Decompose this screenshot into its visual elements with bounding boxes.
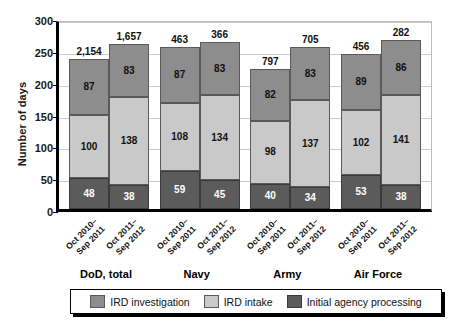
stacked-bar[interactable]: 3413783705 (290, 47, 330, 209)
bar-total-label: 797 (262, 56, 279, 67)
segment-value-label: 40 (265, 191, 276, 201)
bar-segment-initial-agency-processing[interactable]: 59 (160, 171, 200, 209)
legend-label: IRD investigation (110, 296, 189, 308)
bar-segment-initial-agency-processing[interactable]: 48 (69, 178, 109, 209)
y-axis-tick-label: 250 (9, 47, 53, 59)
bar-total-label: 282 (393, 27, 410, 38)
segment-value-label: 59 (174, 185, 185, 195)
segment-value-label: 83 (305, 69, 316, 79)
segment-value-label: 45 (214, 190, 225, 200)
stacked-bar[interactable]: 5310289456 (341, 54, 381, 209)
segment-value-label: 86 (395, 63, 406, 73)
bar-segment-initial-agency-processing[interactable]: 34 (290, 187, 330, 209)
bar-segment-ird-intake[interactable]: 108 (160, 103, 200, 172)
segment-value-label: 98 (265, 147, 276, 157)
bar-segment-ird-intake[interactable]: 100 (69, 115, 109, 179)
bar-segment-initial-agency-processing[interactable]: 38 (381, 185, 421, 209)
legend-label: Initial agency processing (307, 296, 422, 308)
bar-segment-initial-agency-processing[interactable]: 38 (109, 185, 149, 209)
bar-segment-ird-intake[interactable]: 102 (341, 110, 381, 175)
legend-swatch-icon (90, 295, 105, 308)
segment-value-label: 141 (393, 135, 410, 145)
plot-inner: 48100872,15438138831,6575910887463451348… (59, 22, 431, 209)
bar-total-label: 2,154 (76, 46, 101, 57)
segment-value-label: 48 (83, 189, 94, 199)
bar-segment-ird-investigation[interactable]: 83 (109, 44, 149, 97)
bar-segment-initial-agency-processing[interactable]: 40 (250, 184, 290, 209)
segment-value-label: 87 (174, 70, 185, 80)
stacked-bar[interactable]: 48100872,154 (69, 59, 109, 209)
stacked-bar-chart: Number of days 050100150200250300 481008… (0, 0, 456, 334)
bar-segment-ird-investigation[interactable]: 82 (250, 69, 290, 121)
bar-segment-ird-intake[interactable]: 134 (200, 95, 240, 180)
segment-value-label: 89 (355, 77, 366, 87)
bar-segment-ird-investigation[interactable]: 86 (381, 40, 421, 95)
bar-total-label: 705 (302, 34, 319, 45)
y-axis-tick-mark (53, 212, 58, 213)
y-axis-tick-label: 200 (9, 79, 53, 91)
bar-segment-initial-agency-processing[interactable]: 45 (200, 180, 240, 209)
bar-segment-ird-investigation[interactable]: 83 (290, 47, 330, 100)
y-axis-tick-label: 0 (9, 206, 53, 218)
gridline (59, 22, 431, 23)
bar-segment-ird-intake[interactable]: 141 (381, 95, 421, 185)
bar-total-label: 1,657 (116, 31, 141, 42)
segment-value-label: 53 (355, 187, 366, 197)
bar-total-label: 463 (171, 34, 188, 45)
stacked-bar[interactable]: 38138831,657 (109, 44, 149, 209)
legend-item[interactable]: IRD intake (204, 295, 273, 308)
segment-value-label: 83 (123, 66, 134, 76)
legend-item[interactable]: IRD investigation (90, 295, 189, 308)
bar-total-label: 366 (211, 29, 228, 40)
segment-value-label: 137 (302, 139, 319, 149)
segment-value-label: 38 (395, 192, 406, 202)
segment-value-label: 100 (81, 142, 98, 152)
y-axis-tick-label: 50 (9, 174, 53, 186)
y-axis-tick-label: 150 (9, 111, 53, 123)
bar-total-label: 456 (353, 41, 370, 52)
stacked-bar[interactable]: 409882797 (250, 69, 290, 209)
bar-segment-ird-investigation[interactable]: 89 (341, 54, 381, 111)
segment-value-label: 82 (265, 90, 276, 100)
segment-value-label: 83 (214, 64, 225, 74)
plot-area: 48100872,15438138831,6575910887463451348… (56, 21, 432, 212)
bar-segment-ird-intake[interactable]: 138 (109, 97, 149, 185)
legend-swatch-icon (204, 295, 219, 308)
bar-segment-initial-agency-processing[interactable]: 53 (341, 175, 381, 209)
segment-value-label: 134 (211, 133, 228, 143)
chart-legend: IRD investigationIRD intakeInitial agenc… (70, 289, 442, 314)
stacked-bar[interactable]: 3814186282 (381, 40, 421, 209)
y-axis-tick-label: 300 (9, 15, 53, 27)
y-axis-tick-label: 100 (9, 142, 53, 154)
bar-segment-ird-investigation[interactable]: 83 (200, 42, 240, 95)
bar-segment-ird-intake[interactable]: 137 (290, 100, 330, 187)
legend-label: IRD intake (224, 296, 273, 308)
segment-value-label: 108 (171, 132, 188, 142)
segment-value-label: 102 (353, 138, 370, 148)
bar-segment-ird-investigation[interactable]: 87 (160, 47, 200, 102)
bar-segment-ird-investigation[interactable]: 87 (69, 59, 109, 114)
legend-item[interactable]: Initial agency processing (287, 295, 422, 308)
segment-value-label: 87 (83, 82, 94, 92)
bar-segment-ird-intake[interactable]: 98 (250, 121, 290, 183)
stacked-bar[interactable]: 4513483366 (200, 42, 240, 209)
segment-value-label: 34 (305, 193, 316, 203)
legend-swatch-icon (287, 295, 302, 308)
stacked-bar[interactable]: 5910887463 (160, 47, 200, 209)
group-label-air-force: Air Force (318, 268, 438, 280)
y-axis-title: Number of days (16, 54, 28, 194)
segment-value-label: 38 (123, 192, 134, 202)
segment-value-label: 138 (121, 136, 138, 146)
